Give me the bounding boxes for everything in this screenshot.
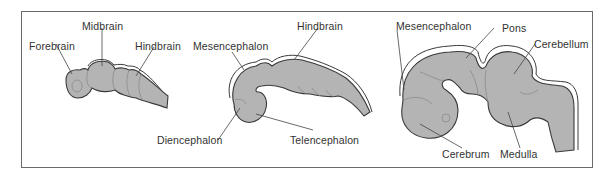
label-cerebellum: Cerebellum xyxy=(534,38,589,50)
label-midbrain: Midbrain xyxy=(82,20,123,32)
label-telencephalon: Telencephalon xyxy=(290,134,359,146)
label-mesencephalon: Mesencephalon xyxy=(193,40,268,52)
label-hindbrain: Hindbrain xyxy=(297,20,343,32)
label-forebrain: Forebrain xyxy=(29,40,75,52)
label-hindbrain: Hindbrain xyxy=(135,40,181,52)
label-pons: Pons xyxy=(502,22,526,34)
label-diencephalon: Diencephalon xyxy=(157,134,222,146)
label-medulla: Medulla xyxy=(500,148,537,160)
label-cerebrum: Cerebrum xyxy=(442,148,489,160)
label-mesencephalon: Mesencephalon xyxy=(396,20,471,32)
